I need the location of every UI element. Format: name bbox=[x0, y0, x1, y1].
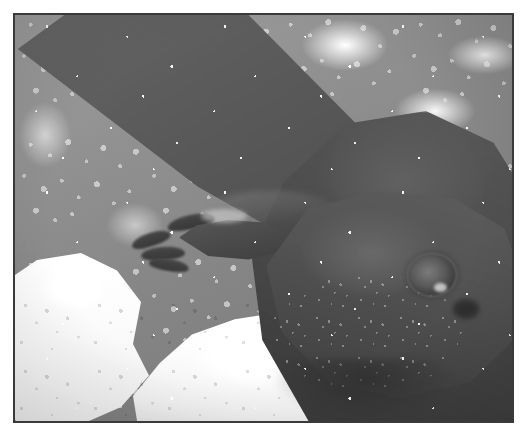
photograph-page bbox=[0, 0, 528, 441]
print-vignette bbox=[15, 15, 512, 421]
photo-frame bbox=[13, 13, 514, 423]
photograph-image bbox=[15, 15, 512, 421]
